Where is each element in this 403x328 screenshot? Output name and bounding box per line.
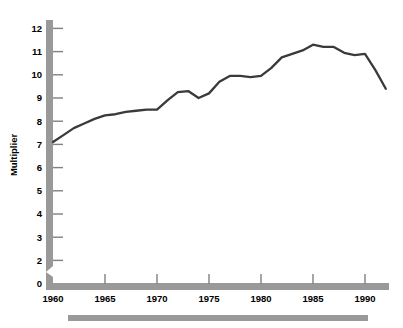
y-tick-label: 7 bbox=[37, 139, 42, 150]
y-axis-title: Multiplier bbox=[8, 134, 19, 177]
multiplier-line-chart: 12 11 10 9 8 7 6 5 4 3 2 0 1960 1965 197… bbox=[0, 0, 403, 328]
x-tick-label: 1990 bbox=[354, 293, 375, 304]
x-tick-label: 1960 bbox=[42, 293, 63, 304]
y-tick-label: 12 bbox=[31, 23, 42, 34]
y-tick-label: 5 bbox=[37, 185, 43, 196]
y-tick-label: 10 bbox=[31, 69, 42, 80]
y-axis-bar bbox=[46, 20, 53, 283]
x-tick-label: 1985 bbox=[302, 293, 324, 304]
x-tick-label: 1975 bbox=[198, 293, 220, 304]
y-tick-label: 8 bbox=[37, 116, 42, 127]
x-tick-label: 1965 bbox=[94, 293, 116, 304]
x-tick-label: 1970 bbox=[146, 293, 167, 304]
y-tick-label: 0 bbox=[37, 278, 42, 289]
y-tick-label: 2 bbox=[37, 255, 42, 266]
chart-background bbox=[0, 0, 403, 328]
y-tick-label: 4 bbox=[37, 208, 43, 219]
y-tick-label: 9 bbox=[37, 92, 42, 103]
y-tick-label: 11 bbox=[32, 46, 43, 57]
x-tick-label: 1980 bbox=[250, 293, 271, 304]
chart-container: 12 11 10 9 8 7 6 5 4 3 2 0 1960 1965 197… bbox=[0, 0, 403, 328]
y-tick-label: 3 bbox=[37, 232, 42, 243]
y-tick-label: 6 bbox=[37, 162, 42, 173]
x-axis-bar bbox=[46, 283, 389, 290]
footer-bar bbox=[68, 315, 368, 321]
